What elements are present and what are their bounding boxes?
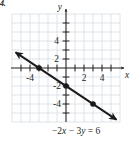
y-tick-label-2: 2 xyxy=(54,54,59,64)
equation-var-x: x xyxy=(62,126,66,136)
y-tick-label-neg4: -4 xyxy=(53,99,61,109)
coordinate-plane-svg: -4 2 4 4 2 -2 -4 y x xyxy=(0,0,132,142)
graph-figure: 4. xyxy=(0,0,132,142)
axis-lines xyxy=(11,9,124,122)
y-tick-label-4: 4 xyxy=(54,36,59,46)
equation-operator: − xyxy=(69,126,74,136)
point-y-intercept xyxy=(63,83,69,89)
equation-term-1: −2 xyxy=(52,126,62,136)
equation-var-y: y xyxy=(81,126,85,136)
y-axis-label: y xyxy=(57,2,63,12)
x-tick-label-2: 2 xyxy=(82,73,87,83)
point-third xyxy=(90,101,96,107)
x-axis-label: x xyxy=(124,70,130,80)
equation-equals: = xyxy=(88,126,93,136)
item-number-label: 4. xyxy=(0,0,6,8)
equation-label: −2x − 3y = 6 xyxy=(52,126,132,137)
equation-rhs: 6 xyxy=(96,126,101,136)
x-tick-label-4: 4 xyxy=(100,73,105,83)
x-tick-label-neg4: -4 xyxy=(26,73,34,83)
point-x-intercept xyxy=(36,65,42,71)
